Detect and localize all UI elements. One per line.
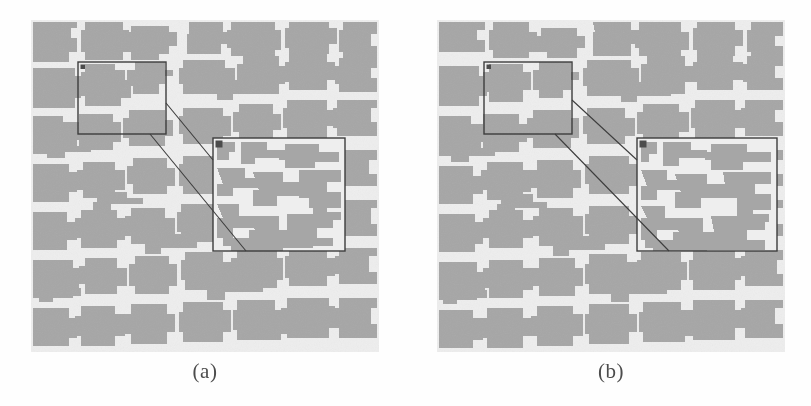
panel-b-source-marker [487, 65, 492, 70]
panel-b-zoom-marker [640, 141, 647, 148]
panel-a-segmentation-image [31, 20, 379, 352]
caption-b: (b) [437, 358, 785, 384]
panel-b [437, 20, 785, 352]
panel-a-source-marker [81, 65, 86, 70]
panel-a-zoom-marker [216, 141, 223, 148]
caption-a: (a) [31, 358, 379, 384]
panel-b-zoom-inset [637, 138, 777, 256]
panel-a [31, 20, 379, 352]
panel-b-segmentation-image [437, 20, 785, 352]
panel-a-zoom-inset [213, 138, 345, 254]
comparison-figure: (a) [0, 0, 811, 406]
